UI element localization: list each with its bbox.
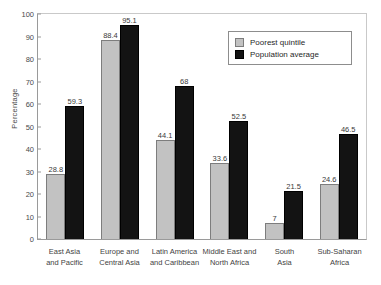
bar-value-label: 21.5 xyxy=(286,182,301,191)
bar: 21.5 xyxy=(284,191,303,239)
y-axis-tick-label: 30 xyxy=(4,167,34,176)
y-axis-tick-label: 70 xyxy=(4,77,34,86)
bar: 46.5 xyxy=(339,134,358,239)
chart-legend: Poorest quintile Population average xyxy=(228,31,352,65)
bar-value-label: 59.3 xyxy=(68,97,83,106)
bar-chart: Percentage 1009080706050403020100 28.859… xyxy=(0,0,381,285)
x-axis-category-label: Latin Americaand Caribbean xyxy=(147,247,202,268)
bar: 44.1 xyxy=(156,140,175,239)
legend-label-population-average: Population average xyxy=(250,50,319,59)
x-axis-category-label: East Asiaand Pacific xyxy=(37,247,92,268)
bar-value-label: 68 xyxy=(180,77,188,86)
bar: 7 xyxy=(265,223,284,239)
bar-group: 44.168 xyxy=(147,14,202,239)
bar-value-label: 88.4 xyxy=(103,31,118,40)
legend-swatch-poorest-quintile xyxy=(235,38,244,47)
y-axis-tick-label: 20 xyxy=(4,190,34,199)
x-axis-category-line: North Africa xyxy=(202,258,257,269)
bar-value-label: 33.6 xyxy=(213,154,228,163)
y-axis-tick-label: 60 xyxy=(4,100,34,109)
bar-group: 28.859.3 xyxy=(38,14,93,239)
x-axis-category-line: Sub-Saharan xyxy=(312,247,367,258)
bar: 68 xyxy=(175,86,194,239)
x-axis-category-line: Africa xyxy=(312,258,367,269)
legend-item-population-average: Population average xyxy=(235,48,346,60)
y-axis-tick-label: 40 xyxy=(4,145,34,154)
bar: 24.6 xyxy=(320,184,339,239)
x-axis-category-line: Central Asia xyxy=(92,258,147,269)
x-axis-category-line: Europe and xyxy=(92,247,147,258)
bar: 59.3 xyxy=(65,106,84,239)
x-axis-category-label: Europe andCentral Asia xyxy=(92,247,147,268)
x-axis-category-label: Sub-SaharanAfrica xyxy=(312,247,367,268)
x-axis-category-line: East Asia xyxy=(37,247,92,258)
bar: 33.6 xyxy=(210,163,229,239)
x-axis-category-line: South xyxy=(257,247,312,258)
y-axis-tick-label: 10 xyxy=(4,212,34,221)
x-axis-category-line: Latin America xyxy=(147,247,202,258)
x-axis-category-label: SouthAsia xyxy=(257,247,312,268)
x-axis-category-line: Asia xyxy=(257,258,312,269)
bar: 88.4 xyxy=(101,40,120,239)
bar-group: 88.495.1 xyxy=(93,14,148,239)
bar-value-label: 24.6 xyxy=(322,175,337,184)
bar-value-label: 46.5 xyxy=(341,125,356,134)
x-axis-category-line: Middle East and xyxy=(202,247,257,258)
legend-item-poorest-quintile: Poorest quintile xyxy=(235,36,346,48)
legend-label-poorest-quintile: Poorest quintile xyxy=(250,38,305,47)
x-axis-category-line: and Caribbean xyxy=(147,258,202,269)
x-axis-category-line: and Pacific xyxy=(37,258,92,269)
bar: 95.1 xyxy=(120,25,139,239)
y-axis-tick-label: 50 xyxy=(4,122,34,131)
y-axis-tick-label: 90 xyxy=(4,32,34,41)
bar-value-label: 44.1 xyxy=(158,131,173,140)
x-axis-category-label: Middle East andNorth Africa xyxy=(202,247,257,268)
y-axis-tick-label: 0 xyxy=(4,235,34,244)
bar: 52.5 xyxy=(229,121,248,239)
y-axis-tick-label: 100 xyxy=(4,10,34,19)
bar: 28.8 xyxy=(46,174,65,239)
legend-swatch-population-average xyxy=(235,50,244,59)
bar-value-label: 52.5 xyxy=(232,112,247,121)
x-axis-labels: East Asiaand PacificEurope andCentral As… xyxy=(37,247,367,268)
bar-value-label: 95.1 xyxy=(122,16,137,25)
bar-value-label: 7 xyxy=(272,214,276,223)
bar-value-label: 28.8 xyxy=(49,165,64,174)
y-axis-tick-label: 80 xyxy=(4,55,34,64)
